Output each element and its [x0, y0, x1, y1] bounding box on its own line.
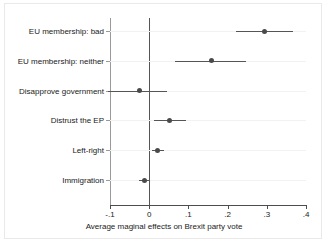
x-axis-tick: [306, 205, 307, 209]
x-axis-tick: [149, 205, 150, 209]
estimate-point-marker: [155, 148, 160, 153]
estimate-point-marker: [167, 118, 172, 123]
x-axis-tick-label: .2: [213, 210, 243, 220]
x-axis-tick-label: .4: [291, 210, 321, 220]
plot-area: -.10.1.2.3.4EU membership: badEU members…: [0, 0, 328, 244]
y-axis-tick: [106, 61, 110, 62]
estimate-point-marker: [209, 58, 214, 63]
x-axis-tick: [267, 205, 268, 209]
y-axis-category-label: Immigration: [62, 176, 104, 185]
zero-reference-line: [149, 18, 150, 206]
x-axis-title: Average maginal effects on Brexit party …: [0, 222, 328, 231]
x-axis-tick-label: -.1: [95, 210, 125, 220]
estimate-point-marker: [142, 178, 147, 183]
y-axis-category-label: Disapprove government: [19, 86, 104, 95]
y-axis-tick: [106, 31, 110, 32]
y-axis-tick: [106, 180, 110, 181]
row-gridline: [110, 150, 306, 151]
y-axis-category-label: EU membership: bad: [29, 27, 104, 36]
x-axis-tick: [188, 205, 189, 209]
y-axis-category-label: Distrust the EP: [51, 116, 104, 125]
y-axis-tick: [106, 120, 110, 121]
x-axis-tick-label: 0: [134, 210, 164, 220]
x-axis-tick-label: .1: [173, 210, 203, 220]
estimate-point-marker: [137, 88, 142, 93]
x-axis-tick: [110, 205, 111, 209]
row-gridline: [110, 120, 306, 121]
y-axis-category-label: EU membership: neither: [18, 56, 104, 65]
y-axis-line: [110, 18, 111, 206]
coefficient-plot-figure: -.10.1.2.3.4EU membership: badEU members…: [0, 0, 328, 244]
x-axis-tick-label: .3: [252, 210, 282, 220]
x-axis-tick: [228, 205, 229, 209]
y-axis-category-label: Left-right: [72, 146, 104, 155]
y-axis-tick: [106, 150, 110, 151]
estimate-point-marker: [262, 29, 267, 34]
x-axis-line: [110, 205, 306, 206]
